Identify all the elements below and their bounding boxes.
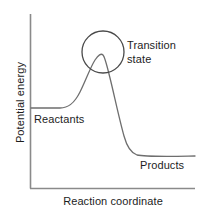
plot-canvas [0, 0, 203, 212]
products-label: Products [140, 159, 184, 172]
energy-profile-curve [31, 54, 195, 156]
y-axis-label: Potential energy [14, 48, 27, 158]
transition-state-label-line2: state [127, 52, 199, 66]
transition-state-label: Transition state [127, 38, 199, 66]
transition-state-label-line1: Transition [127, 38, 199, 52]
reactants-label: Reactants [34, 113, 84, 126]
x-axis-label: Reaction coordinate [30, 195, 196, 208]
reaction-energy-diagram: Potential energy Reaction coordinate Rea… [0, 0, 203, 212]
transition-state-highlight-circle [82, 31, 124, 73]
